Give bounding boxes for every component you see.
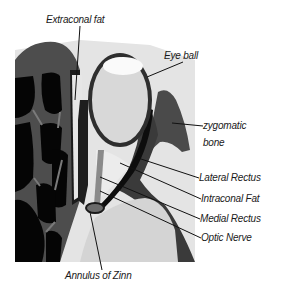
label-lateral-rectus: Lateral Rectus (199, 172, 261, 183)
label-annulus-of-zinn: Annulus of Zinn (65, 270, 132, 281)
label-zygomatic-bone: bone (203, 137, 224, 148)
eyeball-highlight (103, 57, 143, 75)
label-optic-nerve: Optic Nerve (201, 232, 252, 243)
label-eye-ball: Eye ball (164, 50, 198, 61)
annulus-of-zinn (86, 203, 104, 213)
label-zygomatic: zygomatic (203, 120, 246, 131)
air-cell-2 (41, 72, 62, 114)
label-intraconal-fat: Intraconal Fat (201, 193, 259, 204)
orbit-anatomy-diagram: Extraconal fat Eye ball zygomatic bone L… (0, 0, 284, 290)
label-medial-rectus: Medial Rectus (200, 213, 261, 224)
medial-rectus-muscle (78, 100, 88, 205)
air-cell-6 (36, 183, 56, 223)
air-cell-8 (46, 231, 62, 262)
orbit-illustration (0, 0, 284, 290)
label-extraconal-fat: Extraconal fat (46, 14, 104, 25)
